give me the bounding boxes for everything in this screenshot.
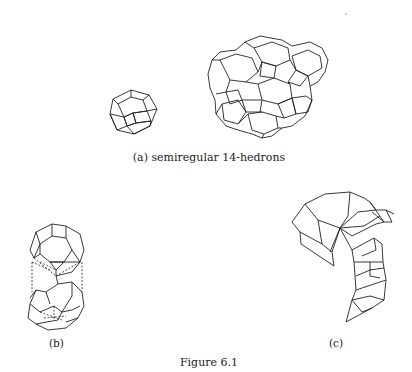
- caption-panel-c: (c): [329, 337, 343, 349]
- figure-drawing: [0, 0, 412, 372]
- caption-panel-b: (b): [49, 337, 64, 349]
- curved-chain: [292, 192, 394, 322]
- stacked-14-hedrons: [28, 224, 84, 330]
- caption-panel-a: (a) semiregular 14-hedrons: [0, 151, 412, 164]
- single-14-hedron: [110, 90, 157, 134]
- figure-title: Figure 6.1: [0, 356, 412, 369]
- speck: [345, 13, 347, 15]
- cluster-14-hedrons: [208, 36, 328, 138]
